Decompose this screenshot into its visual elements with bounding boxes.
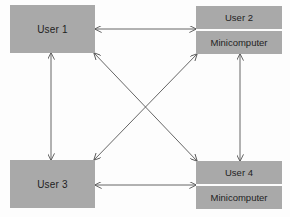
node-user2-sublabel: Minicomputer [210,37,267,48]
node-user4-sublabel: Minicomputer [210,192,267,203]
node-user4-sublabel-box: Minicomputer [196,186,282,209]
node-user4: User 4 [196,161,282,184]
link-user2-user3 [94,54,197,160]
node-user2: User 2 [196,6,282,29]
node-user3-label: User 3 [37,179,68,190]
node-user2-sublabel-box: Minicomputer [196,31,282,54]
node-user3: User 3 [10,160,95,208]
node-user1-label: User 1 [37,24,68,35]
node-user2-label: User 2 [225,12,253,23]
node-user1: User 1 [10,5,95,53]
diagram-canvas: User 1 User 2 Minicomputer User 3 User 4… [0,0,290,217]
node-user4-label: User 4 [225,167,253,178]
